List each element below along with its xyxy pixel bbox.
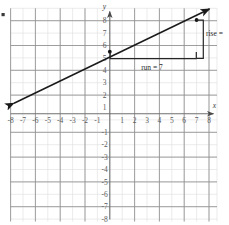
y-tick-label: -2 xyxy=(101,140,107,149)
x-tick-label: -2 xyxy=(82,116,88,125)
y-tick-label: 1 xyxy=(103,103,107,112)
x-tick-label: -7 xyxy=(20,116,26,125)
x-tick-label: -4 xyxy=(57,116,63,125)
x-tick-label: -3 xyxy=(69,116,75,125)
y-tick-label: -1 xyxy=(101,128,107,137)
y-tick-label: 4 xyxy=(103,66,107,75)
x-tick-label: 4 xyxy=(158,116,162,125)
x-axis-label: x xyxy=(212,101,217,110)
y-tick-label: 6 xyxy=(103,41,107,50)
coordinate-plane-figure: y x -8 -7 -6 -5 -4 -3 -2 -1 1 2 3 4 5 6 … xyxy=(0,0,229,225)
y-tick-label: -4 xyxy=(101,165,107,174)
x-tick-label: 8 xyxy=(207,116,211,125)
x-tick-label: 1 xyxy=(120,116,124,125)
x-tick-label: 7 xyxy=(195,116,199,125)
corner-mark xyxy=(2,13,5,16)
figure-background xyxy=(0,0,229,225)
y-tick-label: 2 xyxy=(103,91,107,100)
y-tick-label: -8 xyxy=(101,215,107,224)
x-tick-label: 3 xyxy=(145,116,149,125)
rise-label: rise = xyxy=(206,29,223,38)
x-tick-label: -6 xyxy=(32,116,38,125)
y-tick-label: -7 xyxy=(101,202,107,211)
y-tick-label: -5 xyxy=(101,178,107,187)
x-tick-label: -1 xyxy=(94,116,100,125)
x-tick-label: -5 xyxy=(45,116,51,125)
y-tick-label: -3 xyxy=(101,153,107,162)
y-tick-label: 3 xyxy=(103,78,107,87)
x-tick-label: -8 xyxy=(7,116,13,125)
y-tick-label: -6 xyxy=(101,190,107,199)
run-label: run = 7 xyxy=(141,63,163,72)
x-tick-label: 2 xyxy=(133,116,137,125)
x-tick-label: 6 xyxy=(182,116,186,125)
y-axis-label: y xyxy=(102,2,107,11)
y-tick-label: 7 xyxy=(103,29,107,38)
graph-screenshot: y x -8 -7 -6 -5 -4 -3 -2 -1 1 2 3 4 5 6 … xyxy=(0,0,229,225)
y-tick-label: 8 xyxy=(103,16,107,25)
x-tick-label: 5 xyxy=(170,116,174,125)
